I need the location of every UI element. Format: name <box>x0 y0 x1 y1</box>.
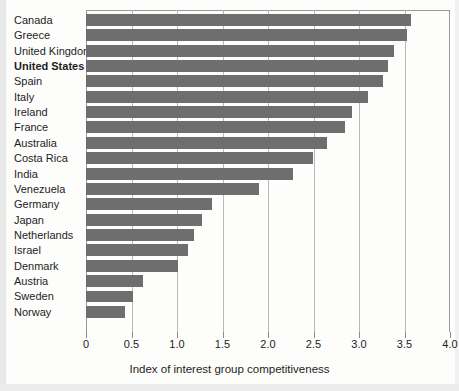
bar <box>86 152 313 164</box>
bar <box>86 214 202 226</box>
x-tick-label: 3.0 <box>351 338 366 350</box>
category-label: France <box>0 121 74 133</box>
bar <box>86 198 212 210</box>
bar-row <box>86 258 450 273</box>
bar <box>86 244 188 256</box>
category-label: Venezuela <box>0 183 74 195</box>
bar <box>86 291 133 303</box>
category-label: Ireland <box>0 106 74 118</box>
bar <box>86 14 411 26</box>
x-axis-title: Index of interest group competitiveness <box>0 363 459 375</box>
bar <box>86 275 143 287</box>
category-label: Spain <box>0 75 74 87</box>
x-axis: 00.51.01.52.02.53.03.54.0 <box>86 332 450 352</box>
x-tick-label: 0.5 <box>124 338 139 350</box>
x-tick-label: 3.5 <box>397 338 412 350</box>
bar-row <box>86 135 450 150</box>
bar-row <box>86 289 450 304</box>
category-label: India <box>0 168 74 180</box>
bar-row <box>86 242 450 257</box>
bar <box>86 306 125 318</box>
category-label: Germany <box>0 198 74 210</box>
bar-row <box>86 43 450 58</box>
category-label: Sweden <box>0 290 74 302</box>
category-label: Norway <box>0 306 74 318</box>
bar-row <box>86 58 450 73</box>
x-tick-label: 0 <box>83 338 89 350</box>
bar <box>86 260 178 272</box>
bar <box>86 91 368 103</box>
bar-row <box>86 304 450 319</box>
bar <box>86 45 394 57</box>
category-label: Denmark <box>0 260 74 272</box>
bar-row <box>86 150 450 165</box>
bar <box>86 29 407 41</box>
category-label: United States <box>0 60 74 72</box>
category-label: Costa Rica <box>0 152 74 164</box>
category-label: Netherlands <box>0 229 74 241</box>
bar-row <box>86 119 450 134</box>
plot-area <box>86 10 450 332</box>
bar-row <box>86 166 450 181</box>
bar-row <box>86 73 450 88</box>
category-axis-labels: CanadaGreeceUnited KingdomUnited StatesS… <box>0 10 80 332</box>
bar-row <box>86 181 450 196</box>
bar-series <box>86 10 450 332</box>
category-label: Australia <box>0 137 74 149</box>
page-edge-bottom <box>0 384 459 391</box>
category-label: Canada <box>0 14 74 26</box>
category-label: Greece <box>0 29 74 41</box>
bar-row <box>86 196 450 211</box>
page-edge-right <box>455 0 459 391</box>
bar <box>86 168 293 180</box>
bar-row <box>86 227 450 242</box>
category-label: Italy <box>0 91 74 103</box>
bar <box>86 121 345 133</box>
bar <box>86 75 383 87</box>
bar-row <box>86 27 450 42</box>
x-tick-label: 1.0 <box>169 338 184 350</box>
bar-row <box>86 273 450 288</box>
x-tick-label: 2.5 <box>306 338 321 350</box>
category-label: Austria <box>0 275 74 287</box>
bar <box>86 183 259 195</box>
x-tick-label: 1.5 <box>215 338 230 350</box>
bar-row <box>86 89 450 104</box>
chart-figure: CanadaGreeceUnited KingdomUnited StatesS… <box>0 0 459 391</box>
bar <box>86 229 194 241</box>
category-label: Israel <box>0 244 74 256</box>
category-label: Japan <box>0 214 74 226</box>
bar <box>86 60 388 72</box>
x-tick-label: 2.0 <box>260 338 275 350</box>
category-label: United Kingdom <box>0 45 74 57</box>
bar <box>86 137 327 149</box>
x-tick-label: 4.0 <box>442 338 457 350</box>
bar-row <box>86 12 450 27</box>
bar-row <box>86 104 450 119</box>
bar <box>86 106 352 118</box>
bar-row <box>86 212 450 227</box>
